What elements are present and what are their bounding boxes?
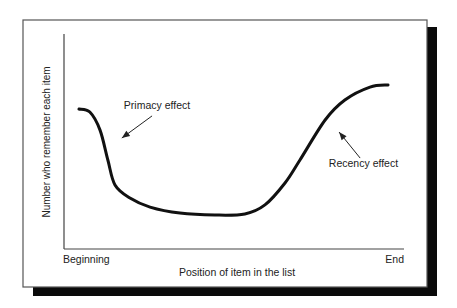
chart-frame [23, 20, 427, 287]
x-axis-label: Position of item in the list [179, 266, 295, 278]
annotation-label-recency-effect: Recency effect [329, 157, 398, 169]
chart-figure: Primacy effectRecency effect Beginning E… [0, 0, 457, 308]
x-tick-label-end: End [385, 253, 404, 265]
x-tick-label-beginning: Beginning [63, 253, 110, 265]
annotation-label-primacy-effect: Primacy effect [124, 99, 190, 111]
y-axis-label: Number who remember each item [41, 66, 52, 217]
